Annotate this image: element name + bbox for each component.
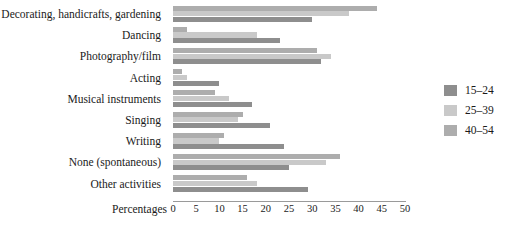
bar: [173, 11, 349, 16]
bar-group: [173, 174, 405, 195]
bar: [173, 96, 229, 101]
bar-group: [173, 89, 405, 110]
bar: [173, 81, 219, 86]
axis-title: Percentages: [0, 203, 173, 215]
value-axis-ticks: 05101520253035404550: [173, 203, 406, 219]
bar: [173, 90, 215, 95]
category-label: Decorating, handicrafts, gardening: [0, 4, 167, 25]
legend-swatch-icon: [444, 125, 457, 136]
bar: [173, 75, 187, 80]
legend-item[interactable]: 40–54: [444, 120, 514, 140]
category-axis-labels: Decorating, handicrafts, gardeningDancin…: [0, 4, 167, 201]
legend-label: 40–54: [465, 124, 494, 136]
category-label: None (spontaneous): [0, 152, 167, 173]
legend-swatch-icon: [444, 85, 457, 96]
chart-legend: 15–2425–3940–54: [444, 80, 514, 140]
bar: [173, 38, 280, 43]
category-label: Writing: [0, 131, 167, 152]
bar-group: [173, 4, 405, 25]
bar-group: [173, 46, 405, 67]
legend-item[interactable]: 15–24: [444, 80, 514, 100]
category-label: Musical instruments: [0, 89, 167, 110]
bar: [173, 48, 317, 53]
category-label: Photography/film: [0, 46, 167, 67]
axis-tick-label: 45: [377, 203, 388, 214]
bar-group: [173, 68, 405, 89]
bar: [173, 32, 257, 37]
bar-group: [173, 25, 405, 46]
bar: [173, 154, 340, 159]
bar: [173, 144, 284, 149]
bar-group: [173, 110, 405, 131]
bar: [173, 175, 247, 180]
axis-tick-label: 50: [400, 203, 411, 214]
legend-item[interactable]: 25–39: [444, 100, 514, 120]
bar: [173, 117, 238, 122]
bar-group: [173, 152, 405, 173]
axis-tick-label: 15: [237, 203, 248, 214]
bar: [173, 102, 252, 107]
plot-area: [173, 4, 405, 201]
bar: [173, 138, 219, 143]
bar: [173, 27, 187, 32]
bar: [173, 123, 270, 128]
axis-tick-label: 35: [330, 203, 341, 214]
legend-swatch-icon: [444, 105, 457, 116]
bar: [173, 165, 289, 170]
bar: [173, 59, 321, 64]
category-label: Acting: [0, 68, 167, 89]
bar: [173, 17, 312, 22]
value-axis-line: [173, 201, 406, 202]
grouped-bar-chart: Decorating, handicrafts, gardeningDancin…: [0, 0, 518, 232]
legend-label: 25–39: [465, 104, 494, 116]
bar: [173, 69, 182, 74]
axis-tick-label: 5: [194, 203, 199, 214]
axis-tick-label: 25: [284, 203, 295, 214]
bar: [173, 133, 224, 138]
bar-group: [173, 131, 405, 152]
axis-tick-label: 20: [261, 203, 272, 214]
bar: [173, 6, 377, 11]
axis-tick-label: 40: [353, 203, 364, 214]
bar: [173, 54, 331, 59]
category-label: Dancing: [0, 25, 167, 46]
bar: [173, 181, 257, 186]
bar: [173, 187, 308, 192]
legend-label: 15–24: [465, 84, 494, 96]
bar: [173, 112, 243, 117]
bar: [173, 160, 326, 165]
category-label: Other activities: [0, 174, 167, 195]
axis-tick-label: 30: [307, 203, 318, 214]
category-label: Singing: [0, 110, 167, 131]
axis-tick-label: 10: [214, 203, 225, 214]
